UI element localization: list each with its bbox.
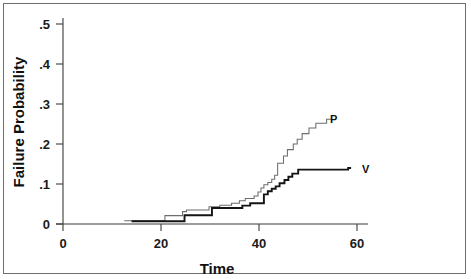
y-tick-label: .1	[39, 177, 50, 192]
y-tick-label: .2	[39, 137, 50, 152]
series-inline-labels: PV	[330, 113, 370, 175]
series-label-p: P	[330, 113, 337, 125]
plot-area: 0.1.2.3.4.5 0204060 PV Time Failure Prob…	[0, 0, 471, 279]
series-curve-v	[132, 168, 352, 221]
x-axis-tick-labels: 0204060	[59, 236, 364, 251]
series-label-v: V	[362, 163, 370, 175]
y-tick-label: .4	[39, 57, 51, 72]
chart-figure: 0.1.2.3.4.5 0204060 PV Time Failure Prob…	[0, 0, 471, 279]
y-tick-label: .3	[39, 97, 50, 112]
x-tick-label: 0	[59, 236, 66, 251]
y-axis-tick-labels: 0.1.2.3.4.5	[39, 17, 51, 232]
series-curves	[124, 119, 351, 221]
y-tick-label: .5	[39, 17, 50, 32]
x-axis-title: Time	[200, 260, 235, 277]
y-axis-ticks	[56, 24, 63, 224]
x-tick-label: 20	[154, 236, 168, 251]
y-axis: 0.1.2.3.4.5	[39, 17, 63, 232]
x-axis: 0204060	[56, 224, 368, 251]
y-axis-title: Failure Probability	[10, 56, 27, 188]
x-tick-label: 40	[252, 236, 266, 251]
x-axis-ticks	[63, 224, 357, 231]
y-tick-label: 0	[43, 217, 50, 232]
x-tick-label: 60	[350, 236, 364, 251]
